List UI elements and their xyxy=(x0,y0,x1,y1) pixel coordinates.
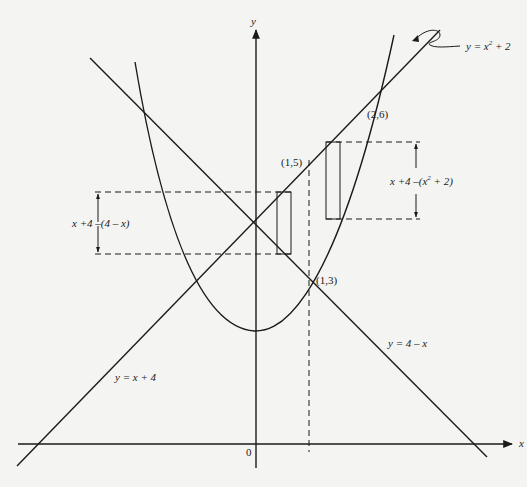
line-rising-label: y = x + 4 xyxy=(115,372,156,383)
line-y-x-plus-4 xyxy=(17,30,440,466)
point-label-2-6: (2,6) xyxy=(367,109,388,120)
line-falling-label: y = 4 – x xyxy=(388,338,427,349)
line-y-4-minus-x xyxy=(90,58,487,457)
parabola-curve xyxy=(135,35,394,331)
height-label-right: x +4 –(x2 + 2) xyxy=(390,175,453,187)
height-label-left: x +4 –(4 – x) xyxy=(72,218,130,229)
parabola-label: y = x2 + 2 xyxy=(466,40,511,52)
diagram-graphics xyxy=(0,0,527,487)
point-label-1-5: (1,5) xyxy=(281,157,302,168)
x-axis-label: x xyxy=(519,438,524,449)
y-axis-label: y xyxy=(251,16,256,27)
callout-arrowhead-icon xyxy=(412,35,419,42)
strip-left xyxy=(277,192,291,254)
point-label-1-3: (1,3) xyxy=(316,275,337,286)
origin-label: 0 xyxy=(246,447,252,458)
diagram-canvas: y x 0 y = x2 + 2 y = x + 4 y = 4 – x (1,… xyxy=(0,0,527,487)
strip-right xyxy=(326,142,340,219)
